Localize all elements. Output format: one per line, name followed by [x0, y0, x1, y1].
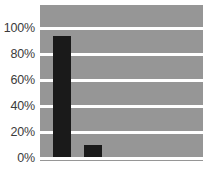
- gridline-0pct: [40, 157, 203, 160]
- y-tick-label-0pct: 0%: [17, 152, 35, 165]
- bar-2: [84, 145, 102, 157]
- y-tick-label-100pct: 100%: [4, 22, 35, 35]
- plot-area: [40, 5, 203, 161]
- y-axis-tick-labels: 0%20%40%60%80%100%: [0, 0, 37, 174]
- y-tick-label-40pct: 40%: [11, 100, 35, 113]
- y-tick-label-60pct: 60%: [11, 74, 35, 87]
- y-tick-label-80pct: 80%: [11, 48, 35, 61]
- bar-chart: 0%20%40%60%80%100%: [0, 0, 210, 174]
- y-tick-label-20pct: 20%: [11, 126, 35, 139]
- gridline-100pct: [40, 27, 203, 30]
- bar-1: [53, 36, 71, 157]
